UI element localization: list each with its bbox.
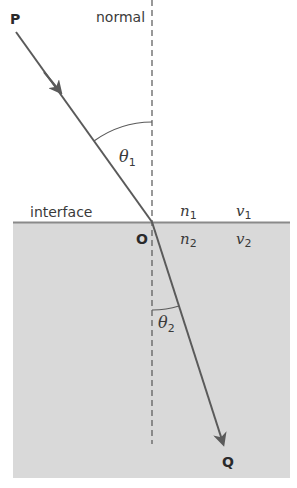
incident-ray — [16, 32, 152, 222]
label-theta1: θ1 — [119, 147, 136, 169]
label-v1: v1 — [236, 202, 251, 222]
label-normal: normal — [96, 9, 145, 25]
theta1-arc — [94, 122, 152, 141]
label-O: O — [136, 231, 148, 247]
label-P: P — [10, 11, 20, 27]
label-Q: Q — [222, 454, 234, 470]
refraction-diagram: P normal θ1 interface n1 v1 O n2 v2 θ2 Q — [0, 0, 297, 488]
incident-arrow-icon — [44, 72, 58, 89]
label-n1: n1 — [180, 202, 197, 222]
label-interface: interface — [30, 204, 92, 220]
